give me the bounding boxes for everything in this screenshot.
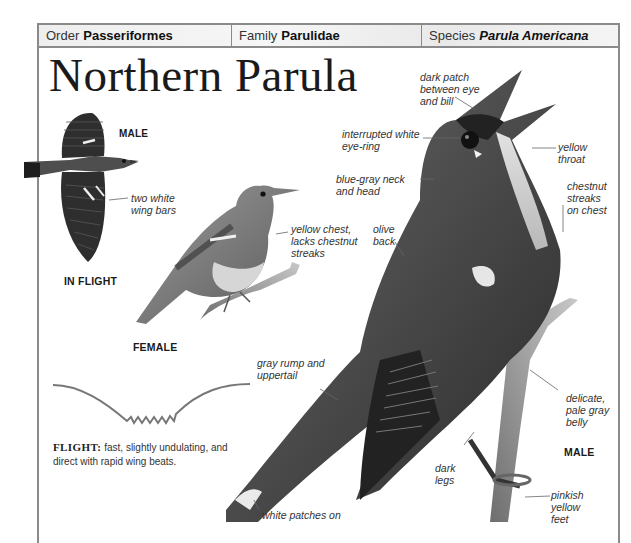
caption-female: FEMALE [133, 341, 177, 353]
label-dark-patch: dark patch between eye and bill [420, 71, 480, 107]
label-two-white-wing-bars: two white wing bars [131, 192, 176, 216]
label-gray-rump: gray rump and uppertail [257, 357, 325, 381]
label-interrupted-eye-ring: interrupted white eye-ring [342, 128, 420, 152]
label-white-patches: white patches on [262, 509, 341, 521]
flight-description: FLIGHT: fast, slightly undulating, and d… [53, 440, 253, 469]
label-dark-legs: dark legs [435, 462, 455, 486]
label-delicate-belly: delicate, pale gray belly [566, 392, 609, 428]
label-pinkish-feet: pinkish yellow feet [551, 489, 584, 525]
flight-path-diagram [53, 384, 250, 423]
caption-in-flight: IN FLIGHT [64, 275, 117, 287]
label-olive-back: olive back [373, 223, 395, 247]
flight-label: FLIGHT: [53, 441, 101, 453]
label-yellow-chest-female: yellow chest, lacks chestnut streaks [291, 223, 358, 259]
label-blue-gray-neck: blue-gray neck and head [336, 173, 405, 197]
caption-male-flight: MALE [119, 128, 148, 139]
label-chestnut-streaks: chestnut streaks on chest [567, 180, 607, 216]
label-yellow-throat: yellow throat [558, 141, 587, 165]
caption-male-main: MALE [564, 446, 595, 458]
